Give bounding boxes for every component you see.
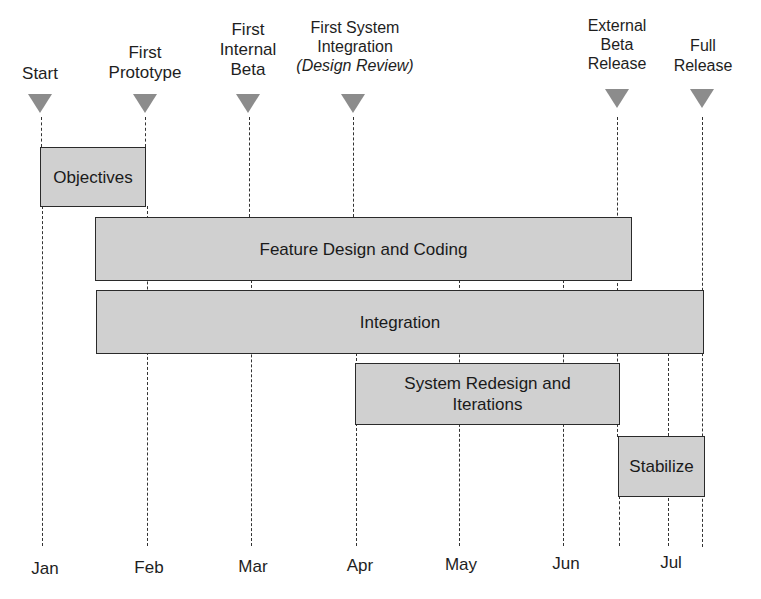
milestone-text: Full Release: [674, 37, 733, 74]
gridline-start: [41, 117, 42, 147]
milestone-triangle-icon: [605, 89, 629, 108]
milestone-triangle-icon: [133, 94, 157, 113]
milestone-label-full-release: Full Release: [674, 36, 733, 76]
milestone-label-first-system-integration: First System Integration(Design Review): [296, 18, 413, 75]
gridline-prototype: [145, 117, 146, 147]
milestone-text: External Beta Release: [588, 17, 647, 72]
month-label-jan: Jan: [31, 559, 58, 579]
task-label: Feature Design and Coding: [260, 239, 468, 260]
milestone-text: First Internal Beta: [220, 20, 277, 79]
milestone-triangle-icon: [236, 94, 260, 113]
task-bar-integration: Integration: [96, 290, 704, 354]
milestone-text: First Prototype: [109, 43, 182, 82]
milestone-label-start: Start: [22, 64, 58, 84]
gridline-internal-beta: [249, 117, 250, 217]
milestone-label-first-internal-beta: First Internal Beta: [220, 20, 277, 80]
gridline-system-integration: [353, 117, 354, 217]
task-label: Integration: [360, 312, 440, 333]
task-label: System Redesign and Iterations: [376, 373, 599, 415]
task-label: Stabilize: [629, 456, 693, 477]
milestone-text: First System Integration: [311, 19, 400, 55]
task-bar-feature-design: Feature Design and Coding: [95, 217, 632, 281]
task-bar-system-redesign: System Redesign and Iterations: [355, 363, 620, 425]
milestone-triangle-icon: [341, 94, 365, 113]
milestone-label-first-prototype: First Prototype: [109, 43, 182, 83]
task-bar-stabilize: Stabilize: [618, 436, 705, 497]
milestone-text: Start: [22, 64, 58, 83]
month-label-apr: Apr: [347, 556, 373, 576]
month-label-jun: Jun: [552, 554, 579, 574]
milestone-triangle-icon: [690, 89, 714, 108]
gridline-jan: [42, 206, 43, 546]
month-label-jul: Jul: [660, 553, 682, 573]
month-label-may: May: [445, 555, 477, 575]
milestone-triangle-icon: [28, 94, 52, 113]
month-label-feb: Feb: [134, 558, 163, 578]
task-bar-objectives: Objectives: [40, 147, 146, 207]
gridline-external-beta-low: [619, 496, 620, 546]
month-label-mar: Mar: [238, 557, 267, 577]
milestone-label-external-beta-release: External Beta Release: [588, 16, 647, 73]
milestone-subtext: (Design Review): [296, 56, 413, 75]
task-label: Objectives: [53, 167, 132, 188]
